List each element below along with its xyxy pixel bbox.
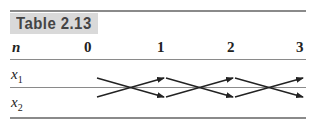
crossing-arrows-diagram xyxy=(0,0,314,120)
